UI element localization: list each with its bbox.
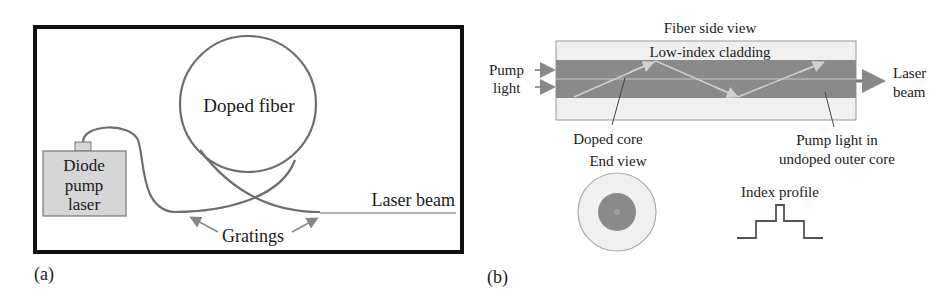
side-view-title: Fiber side view [664, 20, 757, 36]
pump-outer-label-1: Pump light in [796, 132, 878, 148]
panel-a-frame [35, 27, 462, 252]
fiber-strand-right [200, 150, 320, 212]
doped-core-label: Doped core [573, 131, 643, 147]
diode-label-3: laser [68, 195, 100, 214]
pump-light-label-2: light [493, 80, 521, 96]
panel-b: Fiber side view Low-index cladding Pump … [487, 20, 926, 288]
laser-beam-label: Laser beam [372, 190, 455, 210]
laser-beam-b-2: beam [893, 84, 926, 100]
diode-connector [75, 142, 91, 151]
panel-a: Diode pump laser Doped fiber Laser beam … [34, 27, 462, 285]
panel-b-label: (b) [487, 267, 508, 288]
diode-label-2: pump [65, 176, 104, 195]
pump-outer-label-2: undoped outer core [779, 151, 895, 167]
diode-label-1: Diode [63, 156, 105, 175]
grating-arrow-left [192, 218, 218, 232]
grating-arrow-right [292, 219, 316, 232]
end-view-center [614, 209, 620, 215]
index-profile-label: Index profile [741, 184, 819, 200]
pump-light-label-1: Pump [489, 62, 524, 78]
panel-a-label: (a) [34, 264, 54, 285]
end-view-label: End view [589, 153, 646, 169]
gratings-label: Gratings [222, 226, 284, 246]
fiber-laser-diagram: Diode pump laser Doped fiber Laser beam … [0, 0, 952, 302]
laser-beam-b-1: Laser [893, 65, 926, 81]
doped-fiber-label: Doped fiber [203, 95, 295, 116]
cladding-label: Low-index cladding [649, 44, 771, 60]
index-profile-curve [737, 205, 823, 238]
